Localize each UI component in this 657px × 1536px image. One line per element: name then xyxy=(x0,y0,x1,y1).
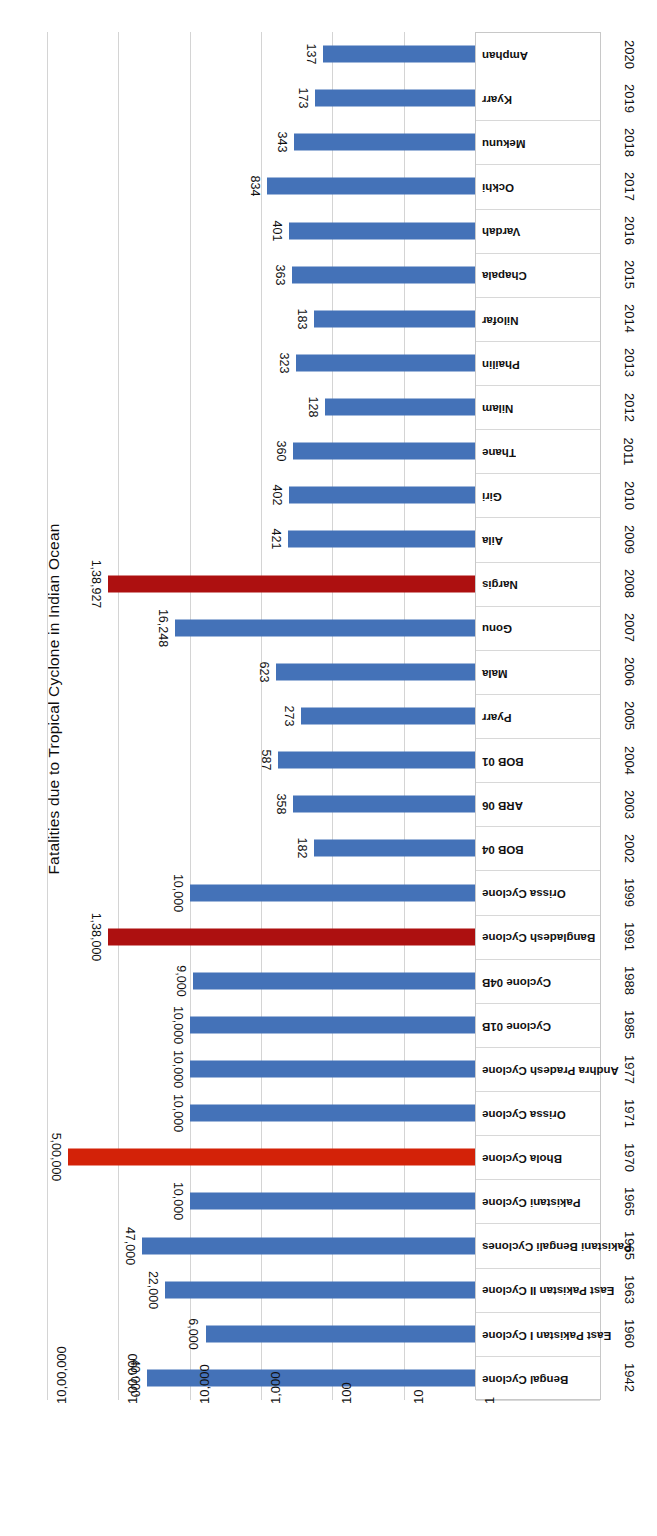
category-label: Cyclone 01B xyxy=(482,1020,551,1032)
category-label-cell: Thane xyxy=(476,430,600,474)
bar-row: 360 xyxy=(47,429,475,473)
year-label: 2009 xyxy=(621,525,636,554)
bar-row: 402 xyxy=(47,473,475,517)
category-label-cell: Giri xyxy=(476,474,600,518)
bar[interactable] xyxy=(314,840,475,857)
category-label: Ockhi xyxy=(482,181,514,193)
year-label-cell: 2017 xyxy=(601,164,657,208)
year-label: 2012 xyxy=(621,393,636,422)
bar[interactable] xyxy=(142,1237,475,1254)
category-label-cell: Amphan xyxy=(476,33,600,77)
bar-value-label: 10,000 xyxy=(171,1006,185,1044)
category-label-cell: Mekunu xyxy=(476,121,600,165)
bar-row: 16,248 xyxy=(47,606,475,650)
bar[interactable] xyxy=(315,90,475,107)
bar[interactable] xyxy=(147,1369,475,1386)
bar-value-label: 22,000 xyxy=(146,1271,160,1309)
bar[interactable] xyxy=(301,707,475,724)
category-label: Aila xyxy=(482,534,503,546)
year-label-cell: 2011 xyxy=(601,429,657,473)
bar-value-label: 10,000 xyxy=(171,873,185,911)
bar[interactable] xyxy=(193,972,475,989)
bar[interactable] xyxy=(296,354,475,371)
year-label-cell: 1985 xyxy=(601,1003,657,1047)
bar[interactable] xyxy=(190,1061,475,1078)
axis-tick-label: 1,00,000 xyxy=(125,1353,140,1404)
bar[interactable] xyxy=(314,310,475,327)
bar[interactable] xyxy=(190,1105,475,1122)
bar-row: 587 xyxy=(47,738,475,782)
year-label: 1971 xyxy=(621,1099,636,1128)
bar[interactable] xyxy=(278,752,475,769)
bar[interactable] xyxy=(108,575,475,592)
bar-row: 1,38,000 xyxy=(47,915,475,959)
bar[interactable] xyxy=(294,134,475,151)
category-label-cell: Bhola Cyclone xyxy=(476,1136,600,1180)
axis-tick-label: 100 xyxy=(339,1382,354,1404)
year-label: 2016 xyxy=(621,216,636,245)
category-label-cell: Ockhi xyxy=(476,165,600,209)
bar[interactable] xyxy=(288,531,475,548)
bar[interactable] xyxy=(108,928,475,945)
year-label: 2017 xyxy=(621,172,636,201)
category-label-cell: Bangladesh Cyclone xyxy=(476,916,600,960)
year-label: 2018 xyxy=(621,128,636,157)
bar[interactable] xyxy=(175,619,475,636)
year-label: 1965 xyxy=(621,1187,636,1216)
bar[interactable] xyxy=(206,1325,476,1342)
year-label-cell: 2010 xyxy=(601,473,657,517)
category-label: Bengal Cyclone xyxy=(482,1373,568,1385)
axis-tick-label: 10,000 xyxy=(197,1364,212,1404)
bar[interactable] xyxy=(190,884,475,901)
category-label: Nilam xyxy=(482,402,513,414)
bar[interactable] xyxy=(292,266,475,283)
bar[interactable] xyxy=(165,1281,475,1298)
year-label: 1965 xyxy=(621,1231,636,1260)
bar[interactable] xyxy=(276,663,475,680)
bar-row: 182 xyxy=(47,826,475,870)
category-label-cell: Kyarr xyxy=(476,77,600,121)
bar-row: 834 xyxy=(47,164,475,208)
bar[interactable] xyxy=(293,443,475,460)
bar[interactable] xyxy=(267,178,475,195)
axis-tick-label: 10 xyxy=(411,1390,426,1404)
bar[interactable] xyxy=(190,1193,475,1210)
category-label-cell: Nilam xyxy=(476,386,600,430)
bar[interactable] xyxy=(68,1149,475,1166)
year-label-cell: 2014 xyxy=(601,297,657,341)
year-label-cell: 2020 xyxy=(601,32,657,76)
bar-row: 22,000 xyxy=(47,1268,475,1312)
bar[interactable] xyxy=(289,222,475,239)
bar-value-label: 360 xyxy=(274,441,288,462)
category-label: BOB 01 xyxy=(482,755,524,767)
category-label-cell: Aila xyxy=(476,518,600,562)
bar-value-label: 587 xyxy=(259,750,273,771)
bar-value-label: 182 xyxy=(295,838,309,859)
category-label-panel: Bengal CycloneEast Pakistan I CycloneEas… xyxy=(475,32,601,1400)
category-label-cell: Chapala xyxy=(476,254,600,298)
year-label-cell: 1965 xyxy=(601,1223,657,1267)
bar[interactable] xyxy=(325,399,475,416)
year-label-cell: 1960 xyxy=(601,1312,657,1356)
category-label-cell: Gonu xyxy=(476,607,600,651)
bar[interactable] xyxy=(293,796,475,813)
bar-row: 421 xyxy=(47,517,475,561)
year-label-cell: 1977 xyxy=(601,1047,657,1091)
year-label: 1977 xyxy=(621,1055,636,1084)
bar-value-label: 173 xyxy=(296,88,310,109)
category-label: Andhra Pradesh Cyclone xyxy=(482,1064,619,1076)
category-label-cell: Pakistani Cyclone xyxy=(476,1180,600,1224)
bar[interactable] xyxy=(289,487,475,504)
bar[interactable] xyxy=(323,46,475,63)
plot-area: 40,0006,00022,00047,00010,0005,00,00010,… xyxy=(47,32,475,1400)
year-label-cell: 2016 xyxy=(601,209,657,253)
bar-value-label: 402 xyxy=(270,485,284,506)
bar-value-label: 10,000 xyxy=(171,1050,185,1088)
bar-row: 9,000 xyxy=(47,959,475,1003)
bar[interactable] xyxy=(190,1016,475,1033)
category-label-cell: Andhra Pradesh Cyclone xyxy=(476,1048,600,1092)
year-label: 2020 xyxy=(621,40,636,69)
category-label-cell: Bengal Cyclone xyxy=(476,1357,600,1401)
bar-row: 401 xyxy=(47,209,475,253)
category-label: Mala xyxy=(482,667,508,679)
